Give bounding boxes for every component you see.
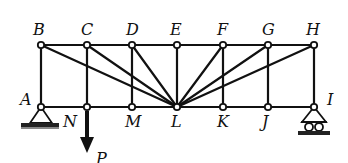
node-E xyxy=(174,42,180,48)
node-J xyxy=(265,104,271,110)
label-B: B xyxy=(32,20,45,39)
node-A xyxy=(38,104,44,110)
label-L: L xyxy=(170,112,182,131)
roller-support-icon xyxy=(298,107,330,135)
label-C: C xyxy=(81,20,93,39)
label-F: F xyxy=(216,20,229,39)
label-K: K xyxy=(216,112,230,131)
node-B xyxy=(38,42,44,48)
node-F xyxy=(220,42,226,48)
node-I xyxy=(311,104,317,110)
label-J: J xyxy=(259,112,270,131)
label-H: H xyxy=(305,20,321,39)
load-arrow-icon xyxy=(80,111,94,153)
member-BL xyxy=(41,45,177,107)
label-D: D xyxy=(125,20,139,39)
label-A: A xyxy=(18,90,32,109)
node-G xyxy=(265,42,271,48)
node-K xyxy=(220,104,226,110)
node-N xyxy=(84,104,90,110)
label-M: M xyxy=(124,112,142,131)
label-G: G xyxy=(262,20,275,39)
node-H xyxy=(311,42,317,48)
label-E: E xyxy=(169,20,182,39)
label-N: N xyxy=(62,112,78,131)
member-HL xyxy=(177,45,314,107)
node-M xyxy=(129,104,135,110)
truss-diagram: B C D E F G H A N M L K J I P xyxy=(0,0,348,163)
node-D xyxy=(129,42,135,48)
label-I: I xyxy=(326,90,334,109)
node-C xyxy=(84,42,90,48)
load-label-P: P xyxy=(95,149,107,163)
node-L xyxy=(174,104,180,110)
